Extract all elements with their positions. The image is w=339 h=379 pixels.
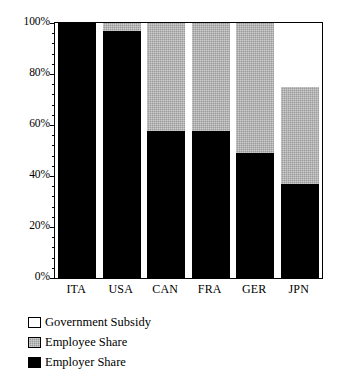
legend-item-government-subsidy: Government Subsidy	[28, 312, 278, 332]
bar-segment-jpn-employee-share	[281, 87, 319, 184]
plot-area	[54, 22, 323, 279]
stacked-bar-chart: 100%80%60%40%20%0% ITAUSACANFRAGERJPN Go…	[0, 0, 339, 379]
legend-swatch-icon	[28, 357, 41, 368]
bar-group-fra	[192, 23, 230, 278]
bar-segment-ita-employer-share	[58, 23, 96, 278]
y-tick-label: 0%	[4, 271, 50, 283]
y-tick-major	[50, 278, 55, 279]
x-tick-label-can: CAN	[143, 282, 188, 296]
bar-segment-can-employer-share	[147, 131, 185, 278]
x-tick-label-jpn: JPN	[277, 282, 322, 296]
chart-legend: Government SubsidyEmployee ShareEmployer…	[28, 312, 278, 372]
x-tick-label-usa: USA	[99, 282, 144, 296]
y-tick-label: 40%	[4, 169, 50, 181]
y-tick-label: 80%	[4, 67, 50, 79]
bar-segment-usa-employee-share	[103, 23, 141, 31]
y-tick-label: 100%	[4, 16, 50, 28]
x-tick-label-ita: ITA	[54, 282, 99, 296]
bar-group-can	[147, 23, 185, 278]
y-tick-label: 20%	[4, 220, 50, 232]
bar-segment-usa-employer-share	[103, 31, 141, 278]
bar-group-ger	[236, 23, 274, 278]
bar-segment-ger-employee-share	[236, 23, 274, 153]
x-tick-label-fra: FRA	[188, 282, 233, 296]
legend-item-employer-share: Employer Share	[28, 352, 278, 372]
legend-swatch-icon	[28, 317, 41, 328]
bar-segment-fra-employer-share	[192, 131, 230, 278]
bar-segment-ger-employer-share	[236, 153, 274, 278]
x-tick-label-ger: GER	[232, 282, 277, 296]
y-tick-label: 60%	[4, 118, 50, 130]
bar-segment-fra-employee-share	[192, 23, 230, 131]
bar-segment-jpn-government-subsidy	[281, 23, 319, 87]
legend-label: Employer Share	[45, 356, 126, 369]
bar-segment-jpn-employer-share	[281, 184, 319, 278]
bar-segment-can-employee-share	[147, 23, 185, 131]
bar-group-usa	[103, 23, 141, 278]
legend-label: Government Subsidy	[45, 316, 151, 329]
bar-group-ita	[58, 23, 96, 278]
x-axis-tick-labels: ITAUSACANFRAGERJPN	[54, 282, 323, 300]
legend-label: Employee Share	[45, 336, 127, 349]
bars-layer	[55, 23, 322, 278]
bar-group-jpn	[281, 23, 319, 278]
legend-item-employee-share: Employee Share	[28, 332, 278, 352]
legend-swatch-icon	[28, 337, 41, 348]
